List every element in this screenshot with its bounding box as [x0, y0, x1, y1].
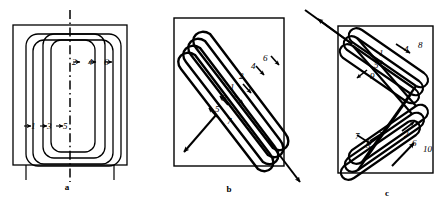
- panel-b-number-1: 1: [230, 82, 235, 92]
- panel-a-coil-2: [43, 34, 105, 158]
- panel-c-number-9: 9: [370, 71, 375, 81]
- panel-b: 7 5 3 1 2 4 6: [174, 18, 300, 182]
- panel-b-number-5: 5: [215, 104, 220, 114]
- panel-a-number-1: 1: [31, 121, 36, 131]
- panel-c-lead-in-arrow: [318, 19, 352, 44]
- panel-a-number-4: 4: [88, 57, 93, 67]
- panel-a-number-3: 3: [46, 121, 52, 131]
- panel-a: 1 3 5 2 4 6: [13, 10, 127, 182]
- panel-b-number-2: 2: [239, 71, 244, 81]
- panel-c-number-8: 8: [418, 40, 423, 50]
- panel-b-number-6: 6: [263, 53, 268, 63]
- panel-c-number-3: 3: [365, 140, 371, 150]
- panel-b-lead-in: [184, 115, 216, 152]
- panel-b-winding-turns: [178, 32, 288, 171]
- panel-a-number-5: 5: [63, 121, 68, 131]
- panel-c-number-4: 4: [404, 44, 409, 54]
- panel-a-number-2: 2: [72, 57, 77, 67]
- panel-c-number-5: 5: [374, 60, 379, 70]
- panel-a-label: a: [65, 182, 70, 192]
- panel-c-number-1: 1: [379, 48, 384, 58]
- panel-a-number-6: 6: [104, 57, 109, 67]
- panel-b-number-4: 4: [251, 61, 256, 71]
- panel-c-label: c: [385, 188, 389, 198]
- technical-winding-diagram: 1 3 5 2 4 6 a: [0, 0, 443, 206]
- panel-c-lead-out: [392, 143, 414, 166]
- panel-b-label: b: [226, 184, 231, 194]
- panel-c-number-6: 6: [412, 138, 417, 148]
- figure-root: 1 3 5 2 4 6 a: [0, 0, 443, 206]
- panel-a-coil-outer: [26, 34, 121, 166]
- panel-b-number-7: 7: [227, 116, 232, 126]
- panel-c: 1 4 8 5 9 7 3 2 6 10: [305, 10, 433, 180]
- panel-c-winding-upper: [340, 28, 428, 103]
- panel-c-number-10: 10: [423, 144, 433, 154]
- panel-b-number-3: 3: [221, 93, 227, 103]
- panel-c-number-2: 2: [404, 129, 409, 139]
- panel-c-number-7: 7: [355, 131, 360, 141]
